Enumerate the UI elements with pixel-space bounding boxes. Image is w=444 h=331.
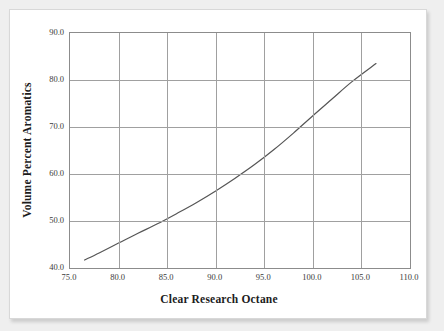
page-background: 75.080.085.090.095.0100.0105.0110.0 40.0… [0, 0, 444, 331]
x-tick-label: 85.0 [146, 272, 186, 282]
x-axis-title: Clear Research Octane [10, 293, 428, 305]
gridline-vertical [361, 33, 362, 268]
figure-card: 75.080.085.090.095.0100.0105.0110.0 40.0… [9, 9, 427, 319]
x-tick-label: 95.0 [243, 272, 283, 282]
gridline-vertical [216, 33, 217, 268]
plot-area [69, 32, 411, 269]
gridline-horizontal [70, 127, 410, 128]
series-line [85, 64, 376, 260]
gridline-vertical [313, 33, 314, 268]
x-tick-label: 110.0 [389, 272, 429, 282]
gridline-horizontal [70, 174, 410, 175]
gridline-horizontal [70, 221, 410, 222]
gridline-vertical [119, 33, 120, 268]
gridline-horizontal [70, 80, 410, 81]
x-tick-label: 75.0 [49, 272, 89, 282]
gridline-vertical [264, 33, 265, 268]
y-axis-title: Volume Percent Aromatics [21, 82, 33, 218]
chart-figure: 75.080.085.090.095.0100.0105.0110.0 40.0… [10, 10, 428, 320]
x-tick-label: 90.0 [195, 272, 235, 282]
data-curve [70, 33, 410, 268]
gridline-vertical [167, 33, 168, 268]
y-axis-title-wrapper: Volume Percent Aromatics [18, 32, 36, 267]
x-tick-label: 105.0 [340, 272, 380, 282]
x-tick-label: 100.0 [292, 272, 332, 282]
x-tick-label: 80.0 [98, 272, 138, 282]
